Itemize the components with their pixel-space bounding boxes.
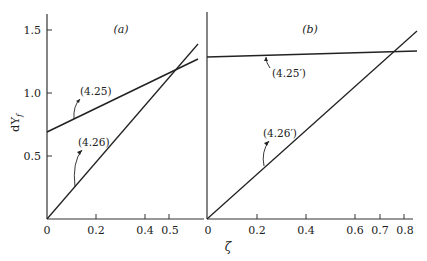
xtick-b-0.6: 0.6 bbox=[346, 224, 364, 237]
panel-b-label: (b) bbox=[302, 23, 318, 36]
xtick-a-0.2: 0.2 bbox=[87, 224, 105, 237]
curve-label-4.25: (4.25) bbox=[80, 85, 112, 97]
curve-4.26-prime bbox=[207, 31, 417, 219]
curve-label-4.26: (4.26) bbox=[78, 136, 110, 148]
ytick-0.5: 0.5 bbox=[24, 150, 42, 163]
curve-label-4.26-prime: (4.26′) bbox=[263, 127, 297, 139]
arrowhead-4.26-prime bbox=[264, 141, 269, 146]
xtick-a-0.5: 0.5 bbox=[161, 224, 179, 237]
xtick-b-0.2: 0.2 bbox=[248, 224, 266, 237]
xtick-b-0.4: 0.4 bbox=[297, 224, 315, 237]
xtick-b-0: 0 bbox=[205, 224, 212, 237]
panel-a-y-tick-labels: 0.5 1.0 1.5 bbox=[24, 24, 42, 163]
ytick-1.5: 1.5 bbox=[24, 24, 42, 37]
arrowhead-4.25 bbox=[76, 99, 80, 103]
xtick-a-0.4: 0.4 bbox=[136, 224, 154, 237]
curve-label-4.25-prime: (4.25′) bbox=[272, 67, 306, 79]
xtick-a-0: 0 bbox=[44, 224, 51, 237]
ytick-1.0: 1.0 bbox=[24, 87, 42, 100]
panel-a-y-ticks bbox=[47, 30, 52, 156]
panel-a-label: (a) bbox=[113, 23, 128, 36]
arrow-4.26 bbox=[74, 150, 82, 187]
x-axis-label: ζ bbox=[225, 240, 233, 254]
panel-b-x-ticks bbox=[257, 214, 404, 219]
xtick-b-0.7: 0.7 bbox=[371, 224, 389, 237]
panel-a-x-tick-labels: 0 0.2 0.4 0.5 bbox=[44, 224, 179, 237]
curve-4.25-prime bbox=[207, 51, 417, 57]
panel-b-x-tick-labels: 0 0.2 0.4 0.6 0.7 0.8 bbox=[205, 224, 414, 237]
panel-a: 0.5 1.0 1.5 0 0.2 0.4 0.5 (a) (4.25) (4.… bbox=[8, 14, 204, 237]
curve-4.26 bbox=[47, 44, 198, 219]
arrowhead-4.26 bbox=[77, 150, 82, 155]
figure: 0.5 1.0 1.5 0 0.2 0.4 0.5 (a) (4.25) (4.… bbox=[0, 0, 427, 261]
xtick-b-0.8: 0.8 bbox=[396, 224, 414, 237]
y-axis-label: dYf bbox=[8, 112, 24, 132]
panel-a-x-ticks bbox=[96, 214, 169, 219]
arrowhead-4.25-prime bbox=[264, 57, 268, 61]
panel-b: 0 0.2 0.4 0.6 0.7 0.8 (b) (4.25′) (4.26′… bbox=[205, 12, 418, 254]
